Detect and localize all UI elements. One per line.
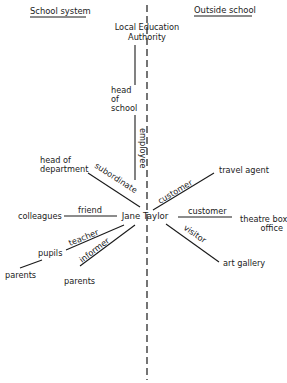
node-lea-line2: Authority xyxy=(128,32,166,42)
heading-outside-school: Outside school xyxy=(194,5,256,15)
node-art-gallery: art gallery xyxy=(223,258,265,268)
role-friend: friend xyxy=(78,205,102,215)
role-visitor: visitor xyxy=(182,222,209,245)
role-subordinate: subordinate xyxy=(93,160,139,195)
role-diagram: School system Outside school Local Educa… xyxy=(0,0,287,383)
role-customer-theatre: customer xyxy=(188,206,227,216)
role-employee: employee xyxy=(138,128,148,168)
node-colleagues: colleagues xyxy=(18,211,62,221)
heading-school-system: School system xyxy=(30,6,91,16)
role-customer-travel: customer xyxy=(156,177,195,206)
node-lea-line1: Local Education xyxy=(115,22,180,32)
center-node-jane-taylor: Jane Taylor xyxy=(121,211,169,221)
link-pupils-parents xyxy=(20,260,42,268)
node-parents-of-pupils: parents xyxy=(5,270,36,280)
node-pupils: pupils xyxy=(38,248,62,258)
node-theatre-box-2: office xyxy=(261,223,283,233)
node-head-of-school-3: school xyxy=(111,103,137,113)
node-parents: parents xyxy=(64,276,95,286)
node-head-of-department-2: department xyxy=(40,164,89,174)
node-travel-agent: travel agent xyxy=(219,165,270,175)
